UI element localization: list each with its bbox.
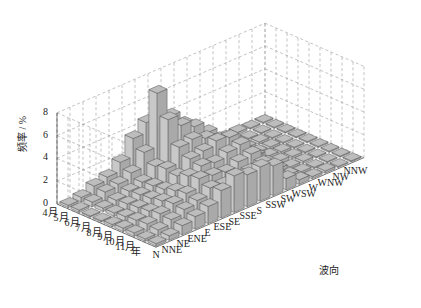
direction-tick-label: E — [205, 228, 211, 238]
bar-face — [247, 171, 257, 207]
grid-line — [265, 46, 364, 89]
z-tick-label: 8 — [43, 107, 48, 117]
direction-tick-label: N — [153, 250, 160, 260]
grid-line — [265, 69, 364, 112]
direction-tick-label: S — [257, 206, 263, 216]
direction-tick-label: SSE — [240, 211, 257, 221]
bar3d-chart — [0, 0, 421, 308]
direction-tick-label: SE — [229, 217, 241, 227]
bar-face — [260, 163, 270, 202]
bar-face — [221, 186, 231, 218]
y-axis-label: 频率 / % — [14, 116, 29, 152]
bar-face — [273, 162, 283, 196]
grid-line — [265, 23, 364, 66]
z-tick-label: 4 — [43, 152, 48, 162]
z-tick-label: 2 — [43, 175, 48, 185]
bar-face — [234, 172, 244, 213]
direction-tick-label: NNW — [344, 166, 368, 176]
month-tick-label: 年 — [131, 247, 141, 257]
x-axis-label: 波向 — [319, 262, 339, 277]
z-tick-label: 6 — [43, 130, 48, 140]
